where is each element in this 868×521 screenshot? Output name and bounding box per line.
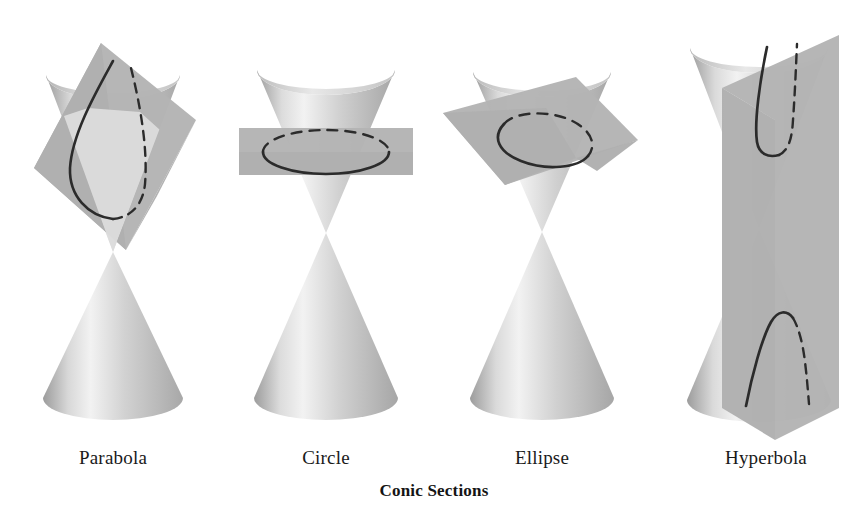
cone-lower-nappe <box>470 232 614 420</box>
cone-lower-nappe <box>43 252 183 420</box>
label-circle: Circle <box>246 447 406 469</box>
panel-hyperbola <box>658 0 868 440</box>
figure-caption: Conic Sections <box>0 481 868 501</box>
cutting-plane-circle <box>239 128 413 175</box>
cone-lower-nappe <box>254 233 398 420</box>
conic-sections-figure: Parabola Circle Ellipse Hyperbola Conic … <box>0 0 868 521</box>
cutting-plane-ellipse <box>443 77 638 185</box>
panel-parabola <box>0 0 226 440</box>
label-ellipse: Ellipse <box>462 447 622 469</box>
panel-ellipse <box>426 0 658 440</box>
panel-circle <box>226 0 426 440</box>
label-hyperbola: Hyperbola <box>686 447 846 469</box>
cutting-plane-hyperbola <box>722 35 839 440</box>
label-parabola: Parabola <box>33 447 193 469</box>
